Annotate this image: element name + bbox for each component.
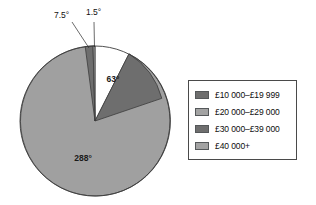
pie-value-label-288: 288°: [74, 153, 92, 163]
legend-swatch-icon: [195, 142, 209, 150]
callout-label-7-5: 7.5°: [54, 10, 69, 20]
legend-swatch-icon: [195, 108, 209, 116]
leader-line-1-5: [94, 22, 95, 47]
legend-item: £40 000+: [195, 137, 296, 154]
legend-item: £10 000–£19 999: [195, 86, 296, 103]
pie-chart-figure: 7.5° 1.5° 63° 288° £10 000–£19 999 £20 0…: [0, 0, 316, 205]
chart-legend: £10 000–£19 999 £20 000–£29 000 £30 000–…: [188, 80, 297, 160]
legend-item: £20 000–£29 000: [195, 103, 296, 120]
legend-item: £30 000–£39 000: [195, 120, 296, 137]
callout-label-1-5: 1.5°: [86, 7, 101, 17]
legend-item-label: £30 000–£39 000: [215, 124, 280, 134]
legend-item-label: £10 000–£19 999: [215, 90, 280, 100]
pie-value-label-63: 63°: [107, 74, 120, 84]
leader-line-7-5: [72, 22, 89, 48]
legend-swatch-icon: [195, 125, 209, 133]
legend-item-label: £20 000–£29 000: [215, 107, 280, 117]
legend-item-label: £40 000+: [215, 141, 250, 151]
legend-swatch-icon: [195, 91, 209, 99]
